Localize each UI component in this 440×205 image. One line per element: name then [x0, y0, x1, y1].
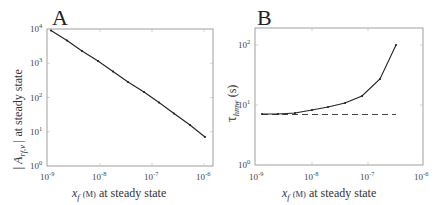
- x-tick: 10-6: [414, 170, 429, 182]
- y-tick: 100: [238, 158, 250, 170]
- x-tick: 10-7: [360, 170, 375, 182]
- svg-text:102: 102: [30, 91, 42, 103]
- y-tick: 101: [30, 125, 42, 137]
- svg-text:10-9: 10-9: [249, 170, 263, 182]
- panel-b: B 100 101 102 10-9 10-8: [224, 5, 429, 202]
- x-tick: 10-7: [144, 170, 159, 182]
- svg-text:10-6: 10-6: [196, 170, 211, 182]
- svg-text:100: 100: [238, 158, 250, 170]
- panel-a-plot-frame: [47, 29, 213, 166]
- panel-a-y-ticks: 100 101 102 103 104: [30, 22, 213, 171]
- y-tick: 104: [30, 22, 43, 34]
- panel-b-y-ticks: 100 101 102: [238, 38, 423, 170]
- panel-a-x-axis-label: xf(M)at steady state: [71, 186, 166, 202]
- x-tick: 10-9: [40, 170, 54, 182]
- svg-text:10-7: 10-7: [144, 170, 159, 182]
- y-tick: 103: [30, 56, 42, 68]
- panel-b-x-axis-label: xf(M)at steady state: [281, 186, 376, 202]
- figure: A 100 101 102 103 104: [0, 0, 440, 205]
- panel-a-markers: [50, 29, 206, 138]
- x-tick: 10-8: [92, 170, 106, 182]
- x-tick: 10-6: [196, 170, 211, 182]
- panel-a-data-line: [51, 31, 205, 138]
- panel-a-label: A: [52, 5, 68, 30]
- y-tick: 102: [238, 38, 250, 50]
- panel-b-data-line: [262, 45, 396, 114]
- svg-text:100: 100: [30, 159, 42, 171]
- x-tick: 10-8: [304, 170, 318, 182]
- panel-a-x-ticks: 10-9 10-8 10-7 10-6: [40, 29, 211, 182]
- svg-text:104: 104: [30, 22, 43, 34]
- x-tick: 10-9: [249, 170, 263, 182]
- svg-text:10-6: 10-6: [414, 170, 429, 182]
- panel-b-plot-frame: [255, 28, 423, 165]
- svg-text:10-8: 10-8: [304, 170, 318, 182]
- svg-text:10-8: 10-8: [92, 170, 106, 182]
- y-tick: 102: [30, 91, 42, 103]
- svg-text:103: 103: [30, 56, 42, 68]
- svg-text:10-9: 10-9: [40, 170, 54, 182]
- panel-b-y-axis-label: τhmw(s): [224, 85, 241, 122]
- y-tick: 100: [30, 159, 42, 171]
- svg-text:102: 102: [238, 38, 250, 50]
- svg-text:10-7: 10-7: [360, 170, 375, 182]
- panel-b-label: B: [257, 5, 272, 30]
- panel-b-x-ticks: 10-9 10-8 10-7 10-6: [249, 28, 429, 182]
- panel-b-markers: [261, 44, 397, 115]
- panel-a: A 100 101 102 103 104: [11, 5, 213, 202]
- panel-a-y-axis-label: | Arf,v|at steady state: [11, 69, 28, 170]
- svg-text:101: 101: [30, 125, 42, 137]
